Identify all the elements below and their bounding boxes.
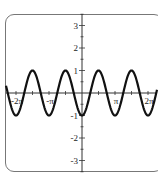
y-tick-label: 3 <box>74 21 79 31</box>
y-tick-label: 2 <box>74 43 79 53</box>
y-tick-label: -3 <box>71 156 79 166</box>
x-tick-label: π <box>114 96 119 106</box>
y-tick-label: 1 <box>74 66 79 76</box>
sinusoid-plot: -2π-ππ2π321-1-2-3 <box>0 0 158 177</box>
y-tick-label: -2 <box>71 133 79 143</box>
y-tick-label: -1 <box>71 111 79 121</box>
axes <box>6 14 157 172</box>
x-tick-label: -π <box>46 96 54 106</box>
